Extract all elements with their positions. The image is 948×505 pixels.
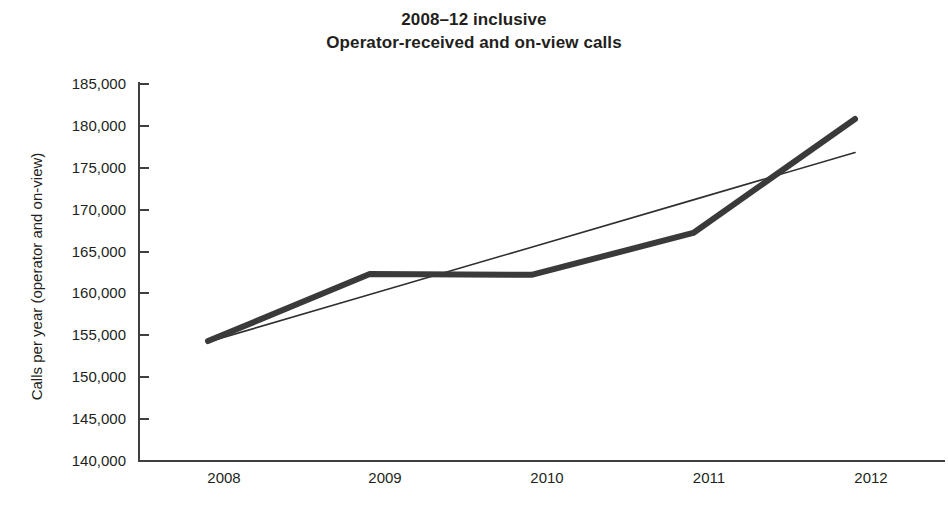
y-tick-mark [138,251,149,253]
y-tick-label: 165,000 [48,244,126,259]
x-tick-label-2010: 2010 [502,469,592,486]
y-axis-title: Calls per year (operator and on-view) [28,82,45,472]
x-tick-label-2011: 2011 [664,469,754,486]
plot-area [138,82,945,461]
y-tick-mark [138,460,149,462]
y-tick-label: 180,000 [48,118,126,133]
chart-title: 2008–12 inclusive Operator-received and … [0,8,948,54]
y-tick-label-text: 155,000 [48,327,126,342]
y-tick-mark [138,418,149,420]
y-tick-label-text: 160,000 [48,285,126,300]
y-tick-mark [138,83,149,85]
y-tick-label: 150,000 [48,369,126,384]
y-tick-mark [138,167,149,169]
y-tick-mark [138,209,149,211]
chart-title-line-2: Operator-received and on-view calls [0,31,948,54]
chart-title-line-1: 2008–12 inclusive [0,8,948,31]
y-tick-label-text: 180,000 [48,118,126,133]
y-tick-label: 145,000 [48,411,126,426]
y-tick-label-text: 185,000 [48,76,126,91]
y-tick-label: 185,000 [48,76,126,91]
y-tick-label: 155,000 [48,327,126,342]
y-tick-label: 175,000 [48,160,126,175]
y-tick-label-text: 170,000 [48,202,126,217]
y-tick-label: 170,000 [48,202,126,217]
x-axis-line [138,460,945,462]
y-tick-label-text: 175,000 [48,160,126,175]
y-tick-label: 140,000 [48,453,126,468]
y-tick-mark [138,376,149,378]
x-tick-label-2009: 2009 [340,469,430,486]
y-tick-mark [138,292,149,294]
y-tick-label-text: 140,000 [48,453,126,468]
y-tick-label-text: 145,000 [48,411,126,426]
y-tick-mark [138,334,149,336]
y-tick-label-text: 165,000 [48,244,126,259]
y-tick-mark [138,125,149,127]
x-tick-label-2008: 2008 [179,469,269,486]
y-tick-label-text: 150,000 [48,369,126,384]
y-tick-label: 160,000 [48,285,126,300]
x-tick-label-2012: 2012 [826,469,916,486]
chart-figure: 2008–12 inclusive Operator-received and … [0,0,948,505]
